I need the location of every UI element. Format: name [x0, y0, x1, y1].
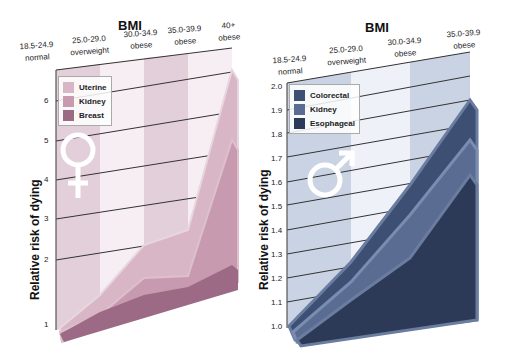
y-tick: 4 [44, 175, 48, 184]
legend-item: Kidney [294, 102, 355, 116]
female-chart: BMI 18.5-24.9normal 25.0-29.0overweight … [0, 0, 255, 364]
y-tick: 5 [44, 136, 48, 145]
legend: Uterine Kidney Breast [58, 76, 112, 126]
y-tick: 1.6 [271, 178, 282, 187]
y-tick: 1.2 [271, 274, 282, 283]
male-plot-area [255, 0, 510, 364]
y-tick: 6 [44, 96, 48, 105]
y-tick: 1 [44, 320, 48, 329]
legend-item: Colorectal [294, 88, 355, 102]
legend-item: Esophageal [294, 116, 355, 130]
male-chart: BMI 18.5-24.9normal 25.0-29.0overweight … [255, 0, 510, 364]
y-tick: 3 [44, 214, 48, 223]
y-tick: 1.4 [271, 226, 282, 235]
y-tick: 1.5 [271, 202, 282, 211]
y-tick: 2.0 [271, 82, 282, 91]
legend-item: Breast [63, 108, 107, 122]
y-tick: 1.7 [271, 154, 282, 163]
y-axis-label: Relative risk of dying [28, 179, 42, 300]
y-tick: 1.0 [271, 322, 282, 331]
y-tick: 1.9 [271, 106, 282, 115]
y-tick: 1.1 [271, 298, 282, 307]
y-tick: 2 [44, 255, 48, 264]
y-tick: 1.3 [271, 250, 282, 259]
y-tick: 1.8 [271, 130, 282, 139]
y-axis-label: Relative risk of dying [257, 169, 271, 290]
legend-item: Uterine [63, 80, 107, 94]
legend-item: Kidney [63, 94, 107, 108]
legend: Colorectal Kidney Esophageal [289, 84, 360, 134]
